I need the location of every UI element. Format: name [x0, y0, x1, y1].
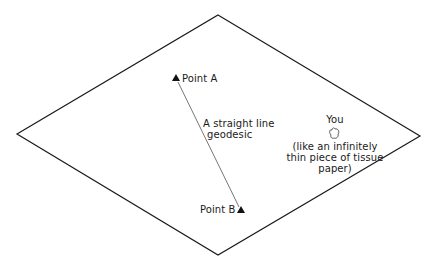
point-b-label: Point B [200, 204, 236, 215]
point-a-label: Point A [182, 73, 218, 84]
geodesic-label-line1: A straight line [203, 118, 275, 129]
you-blob-icon [330, 128, 339, 138]
geodesic-label-line2: geodesic [207, 129, 252, 140]
point-b-triangle-icon [237, 206, 245, 213]
you-label: You [320, 114, 350, 125]
point-a-triangle-icon [172, 74, 180, 81]
you-note-line2: thin piece of tissue [285, 152, 385, 163]
you-note-line3: paper) [285, 163, 385, 174]
you-note-line1: (like an infinitely [285, 141, 385, 152]
geodesic-line [178, 82, 239, 207]
